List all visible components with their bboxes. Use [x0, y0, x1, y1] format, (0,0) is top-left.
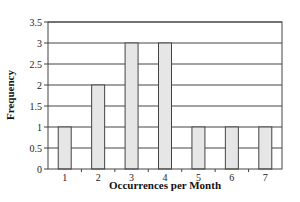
y-tick-label: 0.5 [30, 143, 43, 154]
y-axis-ticks: 00.511.522.533.5 [30, 17, 49, 175]
x-axis-title: Occurrences per Month [109, 179, 221, 191]
bar [225, 127, 238, 169]
bar-chart: 00.511.522.533.5 1234567 Frequency Occur… [0, 0, 300, 202]
y-axis-title: Frequency [4, 70, 16, 120]
bar [92, 85, 105, 169]
y-tick-label: 3 [37, 38, 42, 49]
y-tick-label: 2 [37, 80, 42, 91]
bar [125, 43, 138, 169]
bar [192, 127, 205, 169]
bar [58, 127, 71, 169]
bar [159, 43, 172, 169]
x-tick-label: 2 [96, 172, 101, 183]
y-tick-label: 1 [37, 122, 42, 133]
y-tick-label: 3.5 [30, 17, 43, 28]
x-tick-label: 1 [62, 172, 67, 183]
y-tick-label: 2.5 [30, 59, 43, 70]
y-tick-label: 0 [37, 164, 42, 175]
bar [259, 127, 272, 169]
x-tick-label: 7 [263, 172, 268, 183]
x-tick-label: 6 [229, 172, 234, 183]
y-tick-label: 1.5 [30, 101, 43, 112]
